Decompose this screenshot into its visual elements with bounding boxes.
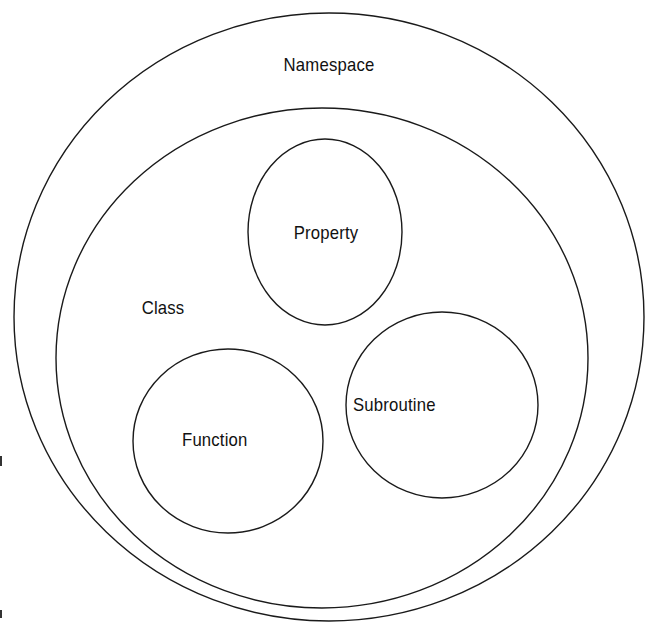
edge-artifact-mark — [0, 610, 2, 618]
namespace-label: Namespace — [284, 54, 375, 76]
class-ellipse — [56, 108, 588, 608]
class-label: Class — [142, 297, 185, 319]
namespace-ellipse — [14, 13, 644, 621]
property-label: Property — [294, 222, 359, 244]
subroutine-label: Subroutine — [353, 394, 436, 416]
diagram-canvas — [0, 0, 658, 631]
function-label: Function — [182, 429, 248, 451]
edge-artifact-mark — [0, 456, 2, 466]
